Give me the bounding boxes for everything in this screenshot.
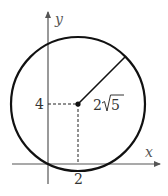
x-tick-label: 2 (74, 171, 83, 187)
svg-text:5: 5 (111, 97, 120, 113)
x-axis-label: x (145, 144, 153, 160)
radius-label: 2 5 (93, 95, 124, 113)
y-tick-label: 4 (35, 96, 44, 112)
circle-diagram: y x 4 2 2 5 (0, 0, 168, 196)
svg-text:2: 2 (93, 97, 102, 113)
center-point (75, 101, 80, 106)
y-axis-label: y (54, 11, 64, 27)
